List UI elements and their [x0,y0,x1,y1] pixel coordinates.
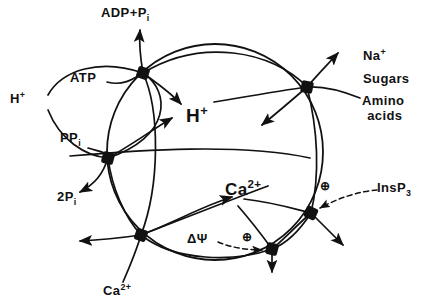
delta-psi-activation-dashed-arrow [218,242,262,250]
transporter-node-group [101,65,319,256]
membrane-sweep-right [307,87,317,213]
bottom-left-efflux-arrow [80,235,141,241]
adp-pi-subscript: i [147,13,150,23]
label-atp: ATP [70,71,96,86]
insp3-text: InsP [377,180,406,195]
delta-psi-text: ΔΨ [187,231,208,246]
ca-bottom-text: Ca [103,283,120,298]
plus-circle-delta-psi: ⊕ [242,231,252,244]
na-plus-text: Na [363,48,380,63]
membrane-transport-diagram: ADP+Pi ATP H+ PPi 2Pi H+ Na+ Sugars Amin… [0,0,430,307]
right-node-inlet-arc [307,87,360,98]
acids-text: acids [362,109,404,124]
transporter-symport-right[interactable] [300,80,314,94]
sugars-text: Sugars [363,71,409,86]
plus-circle-insp3: ⊕ [320,180,330,193]
ca-to-insp3-arc [244,199,311,213]
two-pi-arrow [80,158,108,192]
two-pi-subscript: i [74,197,77,207]
circle-plus-icon: ⊕ [320,180,330,192]
ca-center-superscript: 2+ [248,178,262,190]
ca-bottom-superscript: 2+ [120,282,131,292]
h-plus-center-text: H [186,105,200,126]
h-plus-center-superscript: + [200,103,208,118]
label-delta-psi: ΔΨ [187,232,208,247]
label-sugars: Sugars [363,72,409,87]
h-plus-left-superscript: + [20,90,26,100]
na-plus-superscript: + [380,47,386,57]
label-na-plus: Na+ [363,48,386,64]
label-ca-bottom: Ca2+ [103,283,131,299]
membrane-sweep-top-right [143,52,307,87]
membrane-sweep-top-left [141,73,156,235]
circle-plus-icon: ⊕ [242,231,252,243]
atp-text: ATP [70,70,96,85]
label-ca-center: Ca2+ [225,178,262,199]
insp3-subscript: 3 [406,188,411,198]
adp-pi-text: ADP+P [101,5,147,20]
ppi-subscript: i [78,138,81,148]
label-h-plus-left: H+ [10,91,25,107]
label-two-pi: 2Pi [57,190,77,207]
label-ppi: PPi [60,131,81,148]
two-pi-text: 2P [57,189,74,204]
label-adp-pi: ADP+Pi [101,6,150,23]
label-insp3: InsP3 [377,181,411,198]
h-plus-left-text: H [10,91,20,106]
label-h-plus-center: H+ [186,104,208,127]
ppi-text: PP [60,130,78,145]
membrane-sweep-left [108,158,141,235]
diagram-vector-layer [0,0,430,307]
insp3-node-lower-arc [272,213,311,249]
ca-center-text: Ca [225,180,248,199]
ca-influx-line-bottom [123,235,141,282]
amino-text: Amino [362,93,404,108]
label-amino-acids: Amino acids [362,94,404,123]
insp3-efflux-arrow [311,213,343,245]
